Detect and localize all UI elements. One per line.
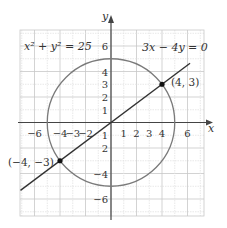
y-axis-arrow-icon bbox=[108, 15, 114, 23]
y-tick-label: −6 bbox=[93, 194, 108, 205]
y-tick-label: 3 bbox=[102, 79, 108, 90]
y-axis-label: y bbox=[101, 10, 109, 23]
x-tick-label: 2 bbox=[133, 128, 139, 139]
intersection-point bbox=[159, 82, 164, 87]
circle-line-diagram: −6−4−3−2123466432112−4−6 x² + y² = 25 3x… bbox=[0, 0, 227, 228]
y-tick-label: 1 bbox=[102, 130, 108, 141]
y-tick-label: 2 bbox=[102, 92, 108, 103]
point-label-neg4-neg3: (−4, −3) bbox=[8, 156, 54, 168]
x-axis-label: x bbox=[208, 122, 215, 135]
line-equation-label: 3x − 4y = 0 bbox=[142, 41, 208, 54]
y-tick-label: −4 bbox=[93, 169, 108, 180]
intersection-point bbox=[57, 158, 62, 163]
x-tick-label: −2 bbox=[78, 128, 93, 139]
x-tick-label: −6 bbox=[27, 128, 42, 139]
x-tick-label: 3 bbox=[146, 128, 152, 139]
y-tick-label: 4 bbox=[102, 67, 108, 78]
y-tick-label: 2 bbox=[102, 143, 108, 154]
y-tick-label: 6 bbox=[102, 41, 108, 52]
x-tick-label: 4 bbox=[159, 128, 165, 139]
x-tick-label: 6 bbox=[184, 128, 190, 139]
y-tick-label: 1 bbox=[102, 105, 108, 116]
point-label-4-3: (4, 3) bbox=[171, 76, 199, 88]
circle-equation-label: x² + y² = 25 bbox=[24, 40, 92, 53]
x-tick-label: 1 bbox=[121, 128, 127, 139]
